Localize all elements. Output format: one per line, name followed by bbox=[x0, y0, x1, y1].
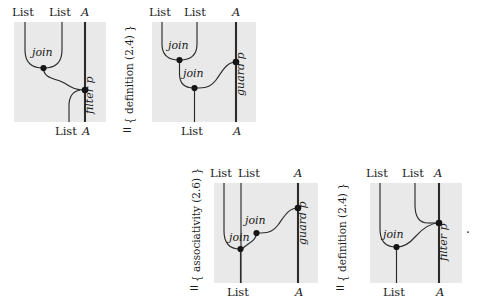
port-top-list-1: List bbox=[210, 168, 232, 180]
op-label-join-upper: join bbox=[242, 214, 266, 227]
port-bottom-list: List bbox=[55, 126, 77, 138]
diagram-3: join join guard p List List A List A bbox=[214, 183, 318, 283]
proof-row-top: join filter p List List A List A { defin… bbox=[0, 0, 478, 150]
node-join-lower bbox=[237, 246, 243, 252]
diagram-3-canvas: join join guard p bbox=[214, 183, 318, 283]
op-label-join-upper: join bbox=[165, 39, 189, 52]
port-bottom-a: A bbox=[82, 126, 90, 138]
side-label-guard-p: guard p bbox=[296, 201, 309, 245]
port-bottom-list: List bbox=[227, 287, 249, 299]
node-join-upper bbox=[176, 57, 182, 63]
port-top-list-2: List bbox=[49, 7, 71, 19]
node-join bbox=[393, 244, 399, 250]
diagram-2: join join guard p List List A List A bbox=[152, 22, 256, 122]
op-label-join-lower: join bbox=[180, 67, 204, 80]
port-bottom-list: List bbox=[383, 287, 405, 299]
port-top-a: A bbox=[81, 7, 89, 19]
node-join-lower bbox=[191, 85, 197, 91]
step-1-justification: { definition (2.4) } bbox=[123, 25, 135, 124]
diagram-1-canvas: join filter p bbox=[14, 22, 106, 122]
diagram-4-canvas: join filter p bbox=[370, 183, 462, 283]
step-3-equals: = bbox=[335, 281, 345, 295]
port-bottom-a: A bbox=[436, 287, 444, 299]
step-2-justification: { associativity (2.6) } bbox=[190, 168, 202, 282]
node-join-upper bbox=[253, 230, 259, 236]
proof-figure: join filter p List List A List A { defin… bbox=[0, 0, 478, 300]
port-top-list-2: List bbox=[402, 168, 424, 180]
end-mark: . bbox=[466, 222, 470, 236]
node-join bbox=[40, 65, 46, 71]
op-label-join: join bbox=[380, 228, 404, 241]
step-3-justification: { definition (2.4) } bbox=[336, 183, 348, 282]
port-top-list-1: List bbox=[149, 7, 171, 19]
side-label-filter-p: filter p bbox=[83, 76, 96, 115]
port-top-a: A bbox=[434, 168, 442, 180]
port-bottom-list: List bbox=[181, 126, 203, 138]
step-1-equals: = bbox=[122, 123, 132, 137]
port-bottom-a: A bbox=[295, 287, 303, 299]
port-top-list-1: List bbox=[366, 168, 388, 180]
port-top-a: A bbox=[232, 7, 240, 19]
port-top-list-1: List bbox=[12, 7, 34, 19]
proof-row-bottom: { associativity (2.6) } = bbox=[0, 150, 478, 300]
port-top-list-2: List bbox=[184, 7, 206, 19]
port-top-list-2: List bbox=[238, 168, 260, 180]
diagram-2-canvas: join join guard p bbox=[152, 22, 256, 122]
side-label-guard-p: guard p bbox=[234, 52, 247, 96]
step-2-equals: = bbox=[189, 281, 199, 295]
op-label-join-lower: join bbox=[226, 231, 250, 244]
op-label-join: join bbox=[29, 46, 53, 59]
diagram-4: join filter p List List A List A bbox=[370, 183, 462, 283]
side-label-filter-p: filter p bbox=[437, 223, 450, 262]
port-bottom-a: A bbox=[233, 126, 241, 138]
port-top-a: A bbox=[294, 168, 302, 180]
diagram-1: join filter p List List A List A bbox=[14, 22, 106, 122]
